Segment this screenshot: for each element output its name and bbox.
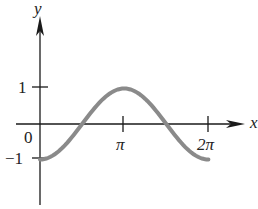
x-tick-label-2pi: 2π (197, 136, 214, 153)
x-tick-label-pi: π (116, 136, 125, 153)
y-axis-label: y (34, 0, 42, 17)
plot-area (0, 0, 258, 209)
origin-label: 0 (24, 129, 33, 146)
y-tick-label-1: 1 (18, 79, 27, 96)
x-axis-label: x (250, 114, 258, 131)
y-tick-label-neg1: −1 (5, 150, 23, 167)
